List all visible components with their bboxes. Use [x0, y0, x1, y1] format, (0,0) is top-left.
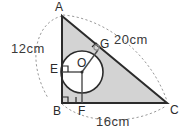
geometry-figure: A B C O E F G 12cm 16cm 20cm	[0, 0, 186, 140]
point-label-e: E	[50, 63, 58, 75]
measurement-label-ac: 20cm	[114, 33, 148, 46]
measurement-label-bc: 16cm	[96, 115, 130, 128]
point-label-o: O	[77, 57, 86, 69]
vertex-label-b: B	[53, 105, 61, 117]
point-label-g: G	[100, 38, 109, 50]
geometry-canvas	[0, 0, 186, 140]
vertex-label-c: C	[170, 104, 179, 116]
arc-side-ab	[36, 16, 62, 98]
measurement-label-ab: 12cm	[11, 42, 45, 55]
center-point-o	[81, 71, 84, 74]
point-label-f: F	[78, 105, 85, 117]
vertex-label-a: A	[55, 1, 63, 13]
